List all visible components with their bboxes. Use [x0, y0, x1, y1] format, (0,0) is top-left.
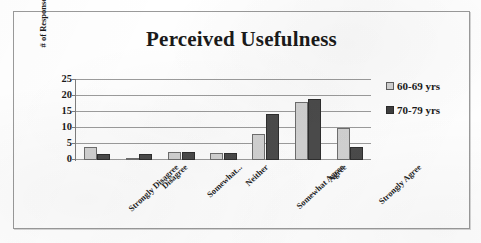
bar [97, 154, 110, 160]
legend-item-60-69: 60-69 yrs [386, 77, 478, 95]
bar [224, 153, 237, 160]
y-tick-label-20: 20 [62, 90, 73, 101]
y-axis-tick-labels: 0510152025 [42, 80, 72, 160]
x-tick-label: Agree [326, 162, 349, 184]
legend-swatch-light-icon [386, 82, 394, 90]
chart-legend: 60-69 yrs 70-79 yrs [386, 77, 478, 125]
bar [295, 102, 308, 160]
legend-label-60-69: 60-69 yrs [397, 80, 440, 92]
y-tick-label-25: 25 [62, 74, 73, 85]
y-axis-title: # of Responses [38, 0, 48, 69]
bar [84, 147, 97, 160]
chart-title: Perceived Usefulness [14, 27, 469, 52]
y-tick-label-10: 10 [62, 122, 73, 133]
bar [308, 99, 321, 160]
x-axis-tick-labels: Strongly DisagreeDisagreeSomewhat...Neit… [76, 162, 376, 234]
legend-swatch-dark-icon [386, 106, 394, 114]
bar-group [160, 80, 202, 160]
y-tick-label-15: 15 [62, 106, 73, 117]
bar [266, 114, 279, 160]
bar [252, 134, 265, 160]
bar-group [287, 80, 329, 160]
x-tick-label: Neither [243, 162, 270, 188]
bar [168, 152, 181, 160]
chart-frame: Perceived Usefulness # of Responses 0510… [13, 11, 470, 229]
legend-label-70-79: 70-79 yrs [397, 104, 440, 116]
bar-group [329, 80, 371, 160]
bar [210, 153, 223, 160]
bar [126, 158, 139, 160]
bar-group [245, 80, 287, 160]
bar [337, 128, 350, 160]
x-tick-label: Somewhat... [205, 162, 244, 199]
bar [182, 152, 195, 160]
bar-group [118, 80, 160, 160]
bar-group [76, 80, 118, 160]
legend-item-70-79: 70-79 yrs [386, 101, 478, 119]
bar [350, 147, 363, 160]
plot-area [76, 80, 371, 160]
bar [139, 154, 152, 160]
x-tick-label: Strongly Agree [376, 162, 422, 206]
bar-group [202, 80, 244, 160]
